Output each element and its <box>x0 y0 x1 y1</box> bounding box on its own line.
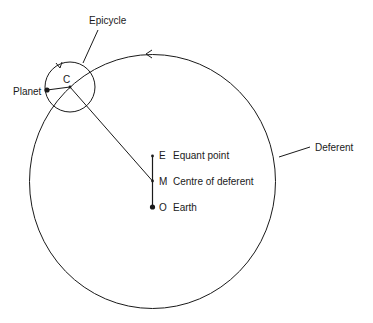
epicycle-leader-line <box>83 30 98 63</box>
radius-line-m-to-c <box>70 87 153 181</box>
planet-point <box>44 87 49 92</box>
planet-label: Planet <box>13 86 42 97</box>
deferent-arrow-icon <box>146 50 152 58</box>
centre-of-deferent-point <box>151 180 154 183</box>
epicycle-centre-point <box>69 86 72 89</box>
earth-point <box>150 204 155 209</box>
deferent-leader-line <box>279 147 310 157</box>
epicycle-centre-label: C <box>63 74 70 85</box>
deferent-label: Deferent <box>315 142 354 153</box>
equant-label: Equant point <box>173 150 229 161</box>
equant-letter: E <box>159 150 166 161</box>
earth-label: Earth <box>173 202 197 213</box>
centre-letter: M <box>159 176 167 187</box>
epicycle-deferent-diagram: Epicycle Planet C Deferent E Equant poin… <box>0 0 373 323</box>
centre-label: Centre of deferent <box>173 176 254 187</box>
epicycle-label: Epicycle <box>89 15 127 26</box>
epicycle-radius-line <box>47 87 70 90</box>
earth-letter: O <box>159 202 167 213</box>
equant-point <box>151 155 154 158</box>
